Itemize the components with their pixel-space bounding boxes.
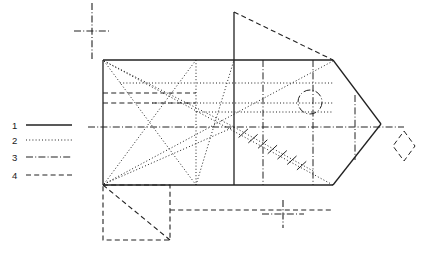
crosshair-group: [74, 3, 304, 228]
solid-line-group: [103, 12, 381, 185]
roof-apex-diagonal: [234, 12, 333, 60]
hatch-tick-7: [297, 161, 306, 170]
bore-circle: [298, 90, 322, 114]
legend-label-2: 2: [12, 135, 17, 146]
nose-lower-edge: [333, 124, 381, 185]
diag-topleft-to-mid: [104, 61, 234, 127]
shape-group: [103, 90, 415, 240]
hatch-tick-4: [268, 145, 277, 154]
legend-label-1: 1: [12, 120, 17, 131]
drawing-svg: 1234: [0, 0, 424, 255]
diag-bottomleft-to-mid: [104, 127, 234, 184]
legend-group: 1234: [12, 120, 72, 181]
detail-diamond: [393, 131, 415, 161]
technical-drawing-canvas: 1234: [0, 0, 424, 255]
dashdot-line-group: [88, 60, 404, 185]
nose-upper-edge: [333, 60, 381, 124]
dotted-line-group: [104, 60, 333, 185]
legend-label-3: 3: [12, 152, 17, 163]
fan-bottomleft-to-upper-mid: [104, 60, 196, 184]
hatch-tick-2: [248, 134, 257, 143]
hatched-diagonal: [234, 127, 315, 172]
hatch-tick-6: [287, 156, 296, 165]
lower-left-box-diagonal: [103, 185, 170, 240]
legend-label-4: 4: [12, 170, 17, 181]
chord-mid-to-upper-right: [196, 60, 234, 185]
fan-topleft-to-lower-mid: [104, 61, 196, 185]
